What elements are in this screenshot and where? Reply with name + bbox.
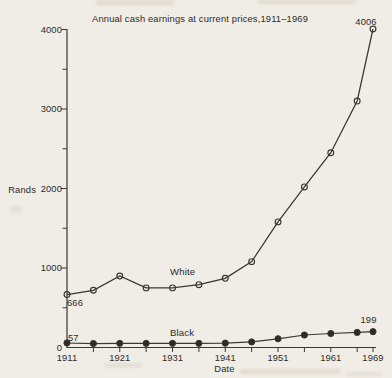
x-tick-label: 1961 <box>320 352 341 363</box>
line-chart: 0100020003000400019111921193119411951196… <box>0 0 392 378</box>
x-tick-label: 1931 <box>162 352 183 363</box>
black-data-point <box>249 339 255 345</box>
chart-title: Annual cash earnings at current prices,1… <box>92 13 308 24</box>
y-tick-label: 1000 <box>41 262 62 273</box>
black-data-point <box>275 336 281 342</box>
annotation-white-first-value: 666 <box>67 297 83 308</box>
white-series-line <box>67 29 373 295</box>
annotation-black-first-value: 57 <box>68 332 79 343</box>
black-data-point <box>143 340 149 346</box>
y-tick-label: 4000 <box>41 24 62 35</box>
x-tick-label: 1969 <box>362 352 383 363</box>
y-tick-label: 3000 <box>41 103 62 114</box>
annotation-white-last-value: 4006 <box>352 16 380 27</box>
annotation-black-last-value: 199 <box>355 314 382 325</box>
series-label-white: White <box>170 266 195 277</box>
black-data-point <box>196 340 202 346</box>
x-tick-label: 1921 <box>109 352 130 363</box>
scanned-chart-page: 0100020003000400019111921193119411951196… <box>0 0 392 378</box>
black-data-point <box>90 340 96 346</box>
x-axis-label: Date <box>207 363 242 374</box>
black-data-point <box>301 332 307 338</box>
x-tick-label: 1951 <box>267 352 288 363</box>
black-data-point <box>169 340 175 346</box>
black-series-line <box>67 332 373 344</box>
black-data-point <box>354 329 360 335</box>
black-data-point <box>328 330 334 336</box>
black-data-point <box>117 340 123 346</box>
axes <box>62 30 377 348</box>
black-data-point <box>222 340 228 346</box>
series-label-black: Black <box>170 327 194 338</box>
x-tick-label: 1911 <box>57 352 78 363</box>
y-axis-label: Rands <box>8 184 36 195</box>
y-tick-label: 2000 <box>41 183 62 194</box>
black-data-point <box>370 329 376 335</box>
x-tick-label: 1941 <box>215 352 236 363</box>
